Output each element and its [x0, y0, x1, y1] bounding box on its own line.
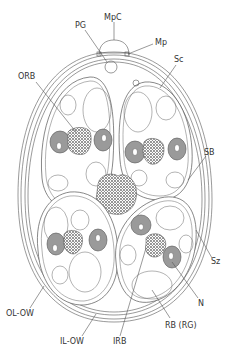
label-il-ow: IL-OW: [60, 337, 84, 346]
label-orb: ORB: [18, 72, 35, 81]
label-sz: Sz: [211, 257, 220, 266]
label-sc: Sc: [174, 55, 183, 64]
label-pg: PG: [75, 21, 86, 30]
diagram-canvas: PG MpC Mp Sc ORB SB Sz N OL-OW IL-OW IRB…: [0, 0, 229, 350]
label-n: N: [198, 299, 204, 308]
micropyle-cap: [97, 40, 129, 56]
sporocyst-bottom-right: [116, 197, 197, 303]
label-mpc: MpC: [104, 13, 122, 22]
label-rb-rg: RB (RG): [165, 321, 197, 330]
polar-granule: [105, 61, 117, 73]
oocyst-diagram: PG MpC Mp Sc ORB SB Sz N OL-OW IL-OW IRB…: [0, 0, 229, 350]
label-mp: Mp: [155, 38, 167, 47]
label-irb: IRB: [113, 337, 126, 346]
label-sb: SB: [204, 148, 215, 157]
label-ol-ow: OL-OW: [6, 309, 34, 318]
